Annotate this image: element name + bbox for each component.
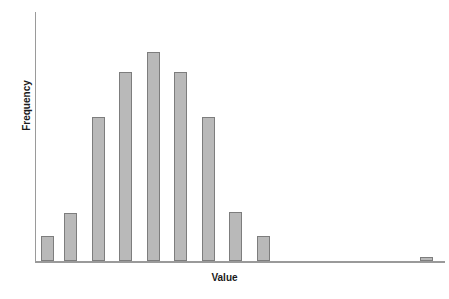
histogram-bar [119, 72, 132, 261]
histogram-bar [174, 72, 187, 261]
x-axis-label: Value [0, 272, 449, 283]
histogram-bar [257, 236, 270, 261]
histogram-bar [420, 257, 433, 261]
plot-area [0, 0, 449, 299]
histogram-figure: Frequency Value [0, 0, 449, 299]
histogram-bar [229, 212, 242, 261]
histogram-bar [64, 213, 77, 261]
y-axis-line [35, 12, 36, 262]
histogram-bar [41, 236, 54, 261]
histogram-bar [202, 117, 215, 261]
x-axis-line [35, 261, 445, 263]
histogram-bar [92, 117, 105, 261]
histogram-bar [147, 52, 160, 261]
y-axis-label: Frequency [21, 66, 32, 146]
